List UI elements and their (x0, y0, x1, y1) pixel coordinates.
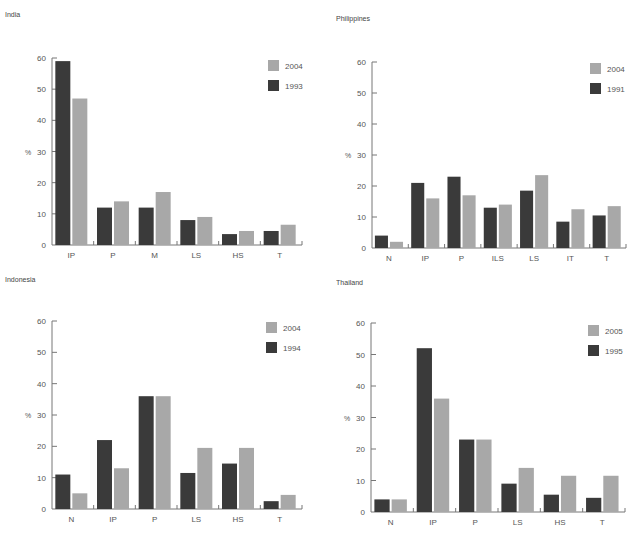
y-tick-label: 0 (361, 508, 366, 517)
x-tick-label: N (388, 518, 394, 527)
x-tick-label: HS (554, 518, 565, 527)
bar-1995 (374, 499, 389, 512)
x-tick-label: IP (429, 518, 437, 527)
bar-2005 (392, 499, 407, 512)
legend-swatch (588, 325, 599, 336)
y-tick-label: 50 (356, 351, 365, 360)
y-tick-label: 20 (356, 445, 365, 454)
y-axis-label: % (344, 415, 350, 422)
bar-chart: 0102030405060%NIPPLSHST20051995 (0, 0, 644, 541)
y-tick-label: 10 (356, 477, 365, 486)
legend-label: 1995 (605, 347, 623, 356)
bar-1995 (586, 498, 601, 512)
bar-1995 (417, 348, 432, 512)
x-tick-label: P (473, 518, 478, 527)
x-tick-label: T (600, 518, 605, 527)
bar-2005 (476, 440, 491, 512)
bar-2005 (603, 476, 618, 512)
y-tick-label: 60 (356, 319, 365, 328)
legend-label: 2005 (605, 327, 623, 336)
legend-swatch (588, 345, 599, 356)
y-tick-label: 40 (356, 382, 365, 391)
y-tick-label: 30 (356, 414, 365, 423)
x-tick-label: LS (513, 518, 523, 527)
bar-2005 (519, 468, 534, 512)
bar-1995 (501, 484, 516, 512)
bar-1995 (544, 495, 559, 512)
bar-1995 (459, 440, 474, 512)
bar-2005 (561, 476, 576, 512)
bar-2005 (434, 399, 449, 512)
